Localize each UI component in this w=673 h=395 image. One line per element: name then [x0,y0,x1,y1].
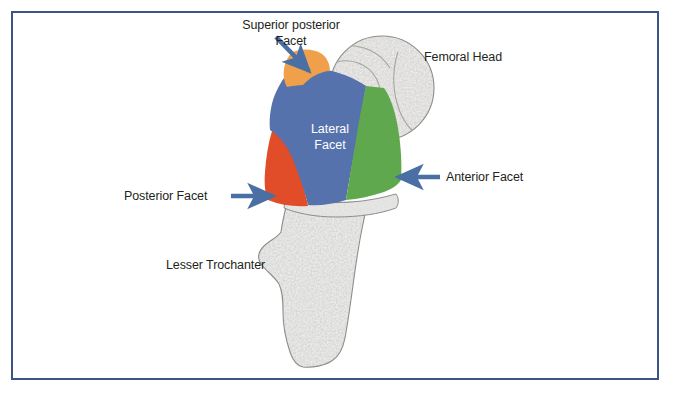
label-anterior-facet: Anterior Facet [446,170,523,186]
figure-root: Superior posterior Facet Femoral Head La… [0,0,673,395]
label-lateral-facet: Lateral Facet [297,121,363,153]
lesser-trochanter-graphic [259,194,399,367]
anatomical-diagram [0,0,673,395]
label-posterior-facet: Posterior Facet [124,189,207,205]
clipped-caption-text [14,386,654,395]
label-superior-posterior-facet: Superior posterior Facet [215,18,367,49]
label-lesser-trochanter: Lesser Trochanter [166,258,265,274]
label-femoral-head: Femoral Head [424,50,502,66]
